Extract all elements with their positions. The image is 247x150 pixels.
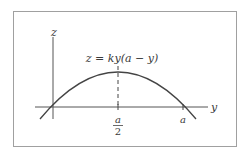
a-tick-label: a: [180, 114, 186, 125]
half-a-numerator: a: [115, 114, 121, 125]
frame-border: [14, 12, 237, 147]
y-axis-label: y: [210, 101, 218, 114]
z-axis-label: z: [50, 26, 57, 39]
half-a-denominator: 2: [115, 126, 121, 137]
equation-label: z = ky(a − y): [85, 52, 158, 65]
diagram-canvas: z y z = ky(a − y) a 2 a: [0, 0, 247, 150]
